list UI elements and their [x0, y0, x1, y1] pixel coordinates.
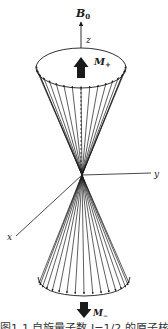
- spin-vector-down: [52, 175, 82, 291]
- spin-vector-up: [82, 83, 106, 175]
- spin-vector-up: [82, 85, 98, 175]
- spin-vector-up: [82, 86, 90, 175]
- x-axis-label: x: [7, 232, 12, 242]
- m-minus-label: M−: [92, 308, 108, 319]
- m-plus-arrow-icon: [74, 57, 89, 78]
- z-axis-label: z: [85, 35, 91, 45]
- figure-caption: 图1-1 自旋量子数 I=1/2 的原子核: [0, 321, 168, 329]
- spin-vector-up: [39, 74, 82, 175]
- m-plus-label: M+: [93, 56, 111, 69]
- y-axis-label: y: [153, 169, 160, 179]
- spin-vector-up: [82, 81, 113, 175]
- spin-vector-down: [40, 175, 82, 285]
- precession-cone-diagram: B0 z M+ y x M−: [0, 0, 168, 329]
- spin-vector-down: [67, 175, 82, 293]
- spin-vector-up: [44, 78, 82, 175]
- spin-vector-down: [82, 175, 121, 289]
- spin-vector-down: [42, 175, 82, 287]
- b0-label: B0: [75, 7, 90, 21]
- spin-vector-up: [56, 83, 82, 175]
- m-minus-arrow-icon: [77, 302, 92, 318]
- lower-cone: [39, 175, 129, 294]
- spin-vector-up: [82, 78, 118, 175]
- y-axis: [82, 173, 151, 175]
- spin-vector-up: [82, 67, 126, 176]
- spin-vector-down: [82, 175, 101, 293]
- spin-vector-down: [82, 175, 129, 283]
